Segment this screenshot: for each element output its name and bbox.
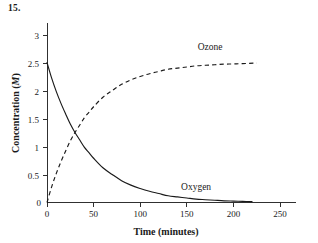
y-tick-label-0.5: 0.5: [28, 171, 40, 181]
x-tick-label-0: 0: [45, 209, 50, 219]
y-axis-title-prefix: Concentration (: [10, 85, 22, 153]
y-tick-label-2: 2: [35, 87, 40, 97]
x-tick-label-200: 200: [227, 209, 241, 219]
y-axis-tick-labels: 3 2.5 2 1.5 1 0.5 0: [28, 31, 42, 208]
ozone-series-label: Ozone: [198, 42, 223, 52]
y-tick-label-2.5: 2.5: [28, 59, 40, 69]
y-tick-label-1: 1: [35, 143, 40, 153]
svg-text:Concentration (M): Concentration (M): [10, 73, 22, 153]
figure-container: 15. 3 2.5 2 1.5 1 0.5 0: [0, 0, 318, 243]
y-axis-ticks: [43, 35, 48, 175]
x-tick-label-250: 250: [273, 209, 287, 219]
y-axis-title-suffix: ): [10, 73, 22, 76]
x-tick-label-150: 150: [180, 209, 194, 219]
y-tick-label-1.5: 1.5: [28, 115, 40, 125]
y-axis-title-group: Concentration (M): [10, 73, 22, 153]
axes-group: [47, 23, 296, 203]
series-line-ozone: [47, 63, 257, 202]
x-tick-label-100: 100: [133, 209, 147, 219]
x-axis-title: Time (minutes): [133, 226, 198, 238]
series-line-oxygen: [47, 63, 252, 202]
oxygen-series-label: Oxygen: [181, 182, 211, 192]
y-tick-label-0: 0: [37, 198, 42, 208]
x-axis-tick-labels: 0 50 100 150 200 250: [45, 209, 288, 219]
x-tick-label-50: 50: [89, 209, 99, 219]
x-axis-ticks: [47, 203, 280, 208]
chart-plot: 3 2.5 2 1.5 1 0.5 0 0 50 100 150 200 250…: [0, 0, 318, 243]
y-tick-label-3: 3: [35, 31, 40, 41]
